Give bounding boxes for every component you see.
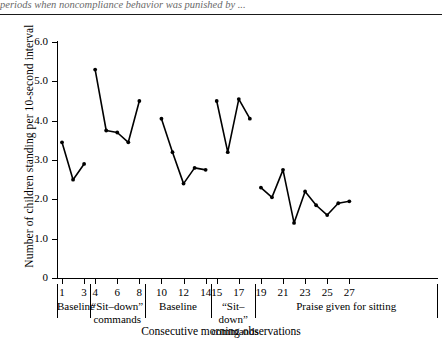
data-point (281, 168, 285, 172)
data-point (347, 199, 351, 203)
data-point (171, 150, 175, 154)
data-point (325, 213, 329, 217)
data-point (248, 117, 252, 121)
data-point (126, 140, 130, 144)
data-point (193, 166, 197, 170)
series-line (62, 142, 84, 179)
data-point (93, 68, 97, 72)
data-point (292, 221, 296, 225)
x-axis-title: Consecutive morning observations (0, 325, 442, 337)
data-point (336, 201, 340, 205)
data-point (204, 168, 208, 172)
series-line (261, 170, 349, 223)
data-point (226, 150, 230, 154)
data-point (60, 140, 64, 144)
data-point (182, 182, 186, 186)
data-point (237, 97, 241, 101)
series-line (217, 99, 250, 152)
data-point (71, 178, 75, 182)
data-point (160, 117, 164, 121)
data-point (215, 99, 219, 103)
data-point (314, 203, 318, 207)
data-point (303, 190, 307, 194)
data-point (115, 131, 119, 135)
series-line (161, 119, 205, 184)
data-point (137, 99, 141, 103)
data-point (82, 162, 86, 166)
data-point (259, 186, 263, 190)
chart-figure: periods when noncompliance behavior was … (0, 0, 442, 347)
data-point (270, 195, 274, 199)
data-series (0, 0, 442, 347)
data-point (104, 129, 108, 133)
